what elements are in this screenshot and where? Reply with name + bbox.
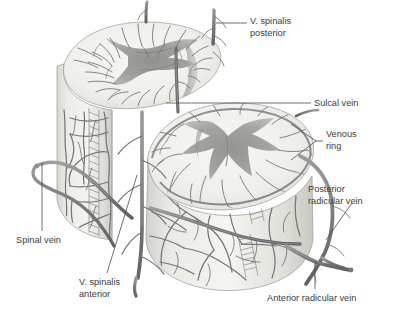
v-spinalis-posterior-stub-right <box>213 10 214 44</box>
spinal-vein-end-cap <box>35 164 39 168</box>
anterior-radicular-end-cap <box>349 268 354 273</box>
v-spinalis-posterior-stub-left <box>146 2 147 22</box>
label-anterior-radicular-vein: Anterior radicular vein <box>267 293 356 303</box>
spinal-cord-venous-diagram: V. spinalis posterior Sulcal vein Venous… <box>0 0 401 317</box>
label-sulcal-vein: Sulcal vein <box>314 98 358 108</box>
label-spinal-vein: Spinal vein <box>16 235 61 245</box>
v-spinalis-anterior-tail <box>135 278 137 296</box>
